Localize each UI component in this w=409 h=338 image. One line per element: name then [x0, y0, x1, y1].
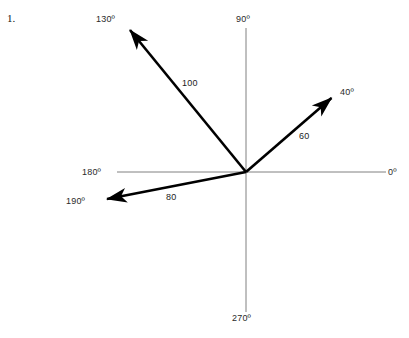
- vector-angle-label-190: 190º: [66, 196, 85, 207]
- vector-angle-label-130: 130º: [96, 14, 115, 25]
- vector-diagram: [0, 0, 409, 338]
- axis-label-270: 270º: [232, 313, 251, 324]
- figure-canvas: 1. 90º 0º 180º 270º 130º 40º 190º 100 60…: [0, 0, 409, 338]
- axis-label-0: 0º: [388, 167, 397, 178]
- axis-label-180: 180º: [82, 167, 101, 178]
- vector-40-line: [246, 98, 332, 172]
- vector-angle-label-40: 40º: [340, 87, 354, 98]
- vector-magnitude-label-80: 80: [166, 192, 176, 203]
- vector-190-line: [107, 172, 246, 199]
- vector-130-line: [130, 30, 246, 172]
- axis-label-90: 90º: [236, 14, 250, 25]
- vector-magnitude-label-60: 60: [299, 131, 309, 142]
- vector-magnitude-label-100: 100: [182, 78, 198, 89]
